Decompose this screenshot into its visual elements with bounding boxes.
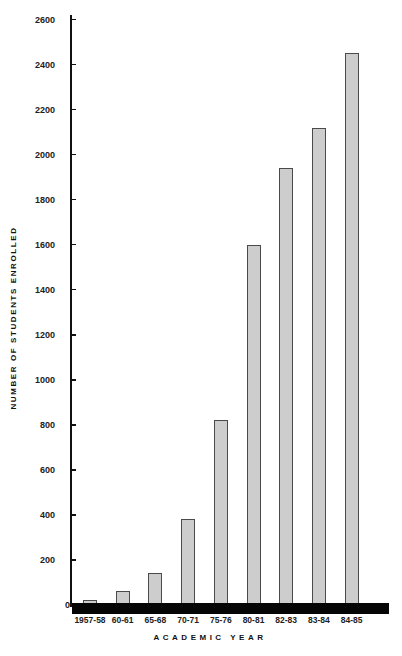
y-tick-label: 800 xyxy=(5,420,55,430)
y-tick-mark xyxy=(71,19,76,21)
y-tick-label: 2600 xyxy=(5,15,55,25)
y-tick-mark xyxy=(71,424,76,426)
y-axis-line xyxy=(70,15,72,607)
bar-70-71 xyxy=(181,519,195,606)
y-tick-mark xyxy=(71,559,76,561)
bar-84-85 xyxy=(345,53,359,606)
bar-chart: NUMBER OF STUDENTS ENROLLED 020040060080… xyxy=(0,0,402,656)
y-tick-label: 0 xyxy=(20,600,70,610)
bar-75-76 xyxy=(214,420,228,606)
y-tick-label: 1800 xyxy=(5,195,55,205)
bar-83-84 xyxy=(312,128,326,606)
y-tick-mark xyxy=(71,64,76,66)
y-tick-label: 1200 xyxy=(5,330,55,340)
x-tick-label: 84-85 xyxy=(332,615,372,625)
y-tick-mark xyxy=(71,109,76,111)
y-tick-mark xyxy=(71,334,76,336)
y-tick-label: 1400 xyxy=(5,285,55,295)
x-axis-baseline xyxy=(72,603,389,614)
y-tick-label: 200 xyxy=(5,555,55,565)
bar-82-83 xyxy=(279,168,293,606)
y-tick-label: 2400 xyxy=(5,60,55,70)
y-tick-mark xyxy=(71,514,76,516)
y-tick-label: 600 xyxy=(5,465,55,475)
y-tick-mark xyxy=(71,379,76,381)
y-tick-label: 2000 xyxy=(5,150,55,160)
y-tick-label: 400 xyxy=(5,510,55,520)
y-tick-label: 1000 xyxy=(5,375,55,385)
y-tick-mark xyxy=(71,469,76,471)
y-tick-mark xyxy=(71,244,76,246)
y-tick-mark xyxy=(71,154,76,156)
y-tick-mark xyxy=(71,289,76,291)
bar-65-68 xyxy=(148,573,162,606)
x-axis-title: ACADEMIC YEAR xyxy=(130,633,290,642)
y-tick-label: 1600 xyxy=(5,240,55,250)
bar-80-81 xyxy=(247,245,261,606)
y-tick-mark xyxy=(71,199,76,201)
y-tick-label: 2200 xyxy=(5,105,55,115)
